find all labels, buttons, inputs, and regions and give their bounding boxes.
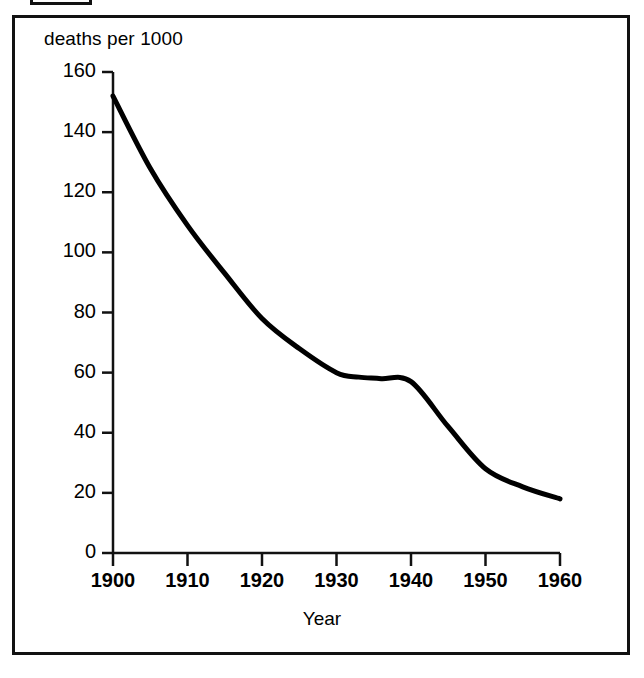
y-tick-label: 0: [26, 540, 96, 563]
y-tick-label: 20: [26, 480, 96, 503]
x-tick-label: 1940: [371, 569, 451, 592]
x-tick-label: 1930: [297, 569, 377, 592]
y-tick-label: 160: [26, 59, 96, 82]
y-tick-label: 40: [26, 420, 96, 443]
x-axis-title: Year: [0, 608, 644, 630]
x-tick-label: 1900: [73, 569, 153, 592]
axis-lines: [113, 72, 560, 553]
x-tick-label: 1950: [446, 569, 526, 592]
y-axis-tick-marks: [102, 72, 113, 553]
figure-root: deaths per 1000 Year 0204060801001201401…: [0, 0, 644, 678]
y-tick-label: 60: [26, 360, 96, 383]
y-tick-label: 80: [26, 300, 96, 323]
x-tick-label: 1960: [520, 569, 600, 592]
data-series-line: [113, 96, 560, 499]
x-tick-label: 1910: [148, 569, 228, 592]
x-tick-label: 1920: [222, 569, 302, 592]
y-tick-label: 100: [26, 239, 96, 262]
y-tick-label: 140: [26, 119, 96, 142]
y-axis-title: deaths per 1000: [44, 28, 183, 50]
y-tick-label: 120: [26, 179, 96, 202]
x-axis-tick-marks: [113, 553, 560, 566]
